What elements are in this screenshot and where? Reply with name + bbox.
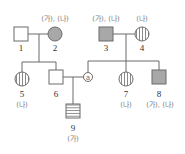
female-circle-vertical-stripes xyxy=(15,72,29,86)
id-label: 3 xyxy=(104,43,109,53)
couple-3-4 xyxy=(113,34,135,61)
trait-label: (가), (나) xyxy=(92,14,120,23)
trait-label: (나) xyxy=(120,100,132,109)
trait-label: (나) xyxy=(16,100,28,109)
male-square-affected xyxy=(152,70,166,84)
male-square-unaffected xyxy=(49,70,63,84)
trait-label: (가), (나) xyxy=(146,100,174,109)
male-square-horizontal-stripes xyxy=(66,104,80,118)
individual-5: 5 (나) xyxy=(15,72,29,109)
male-square-unaffected xyxy=(14,27,28,41)
sibship-3-4 xyxy=(88,61,159,72)
id-label: 5 xyxy=(20,89,25,99)
male-square-affected xyxy=(99,27,113,41)
trait-label: (가) xyxy=(67,134,79,143)
marker-letter: a xyxy=(86,74,90,81)
id-label: 4 xyxy=(140,43,145,53)
trait-label: (나) xyxy=(136,14,148,23)
female-circle-vertical-stripes xyxy=(119,72,133,86)
couple-6-a xyxy=(63,77,83,104)
trait-label: (가), (나) xyxy=(41,14,69,23)
id-label: 9 xyxy=(71,123,76,133)
individual-9: 9 (가) xyxy=(66,104,80,143)
couple-1-2 xyxy=(28,34,48,62)
individual-6: 6 xyxy=(49,70,63,99)
id-label: 8 xyxy=(157,89,162,99)
individual-1: 1 xyxy=(14,27,28,53)
individual-a: a xyxy=(84,73,93,82)
female-circle-affected xyxy=(48,27,62,41)
female-circle-vertical-stripes xyxy=(135,27,149,41)
id-label: 7 xyxy=(124,89,129,99)
id-label: 2 xyxy=(53,43,58,53)
id-label: 1 xyxy=(19,43,24,53)
individual-4: (나) 4 xyxy=(135,14,149,53)
individual-8: 8 (가), (나) xyxy=(146,70,174,109)
id-label: 6 xyxy=(54,89,59,99)
pedigree-diagram: 1 (가), (나) 2 (가), (나) 3 (나) 4 5 (나) 6 xyxy=(0,0,185,154)
individual-7: 7 (나) xyxy=(119,72,133,109)
